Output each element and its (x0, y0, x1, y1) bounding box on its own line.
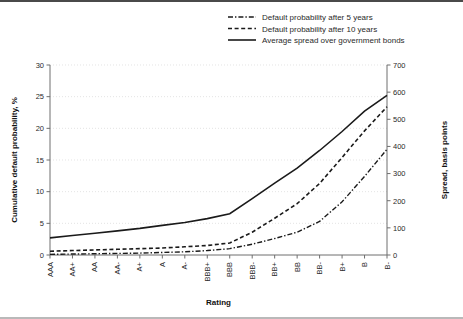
y-ticklabel-right: 600 (393, 88, 406, 97)
x-ticklabel: AA- (113, 262, 122, 275)
x-ticklabel: B (360, 262, 369, 267)
y-ticklabel-left: 30 (36, 61, 44, 70)
x-ticklabel: AA+ (68, 261, 77, 276)
x-ticklabel: BB (293, 262, 302, 272)
legend-label: Default probability after 5 years (262, 13, 373, 22)
legend-label: Average spread over government bonds (262, 36, 405, 45)
y-ticklabel-right: 500 (393, 115, 406, 124)
x-ticklabel: BBB+ (203, 261, 212, 281)
y-ticklabel-right: 300 (393, 169, 406, 178)
y-ticklabel-left: 25 (36, 92, 44, 101)
chart-figure: 0510152025300100200300400500600700AAAAA+… (0, 0, 463, 319)
legend-label: Default probability after 10 years (262, 25, 377, 34)
series-line-solid (50, 95, 387, 238)
x-ticklabel: BB- (315, 262, 324, 275)
y-ticklabel-left: 0 (40, 251, 44, 260)
x-ticklabel: A (158, 262, 167, 267)
y-ticklabel-left: 10 (36, 187, 44, 196)
x-ticklabel: BBB- (248, 262, 257, 280)
x-ticklabel: BB+ (270, 261, 279, 276)
y-ticklabel-left: 5 (40, 219, 44, 228)
y-axis-title-left: Cumulative default probability, % (10, 97, 19, 223)
x-ticklabel: B- (383, 261, 392, 269)
x-ticklabel: B+ (338, 261, 347, 271)
y-axis-title-right: Spread, basis points (440, 120, 449, 199)
y-ticklabel-left: 15 (36, 156, 44, 165)
y-ticklabel-right: 200 (393, 197, 406, 206)
y-ticklabel-left: 20 (36, 124, 44, 133)
chart-canvas: 0510152025300100200300400500600700AAAAA+… (0, 2, 463, 319)
y-ticklabel-right: 700 (393, 61, 406, 70)
y-ticklabel-right: 400 (393, 142, 406, 151)
y-ticklabel-right: 0 (393, 251, 397, 260)
y-ticklabel-right: 100 (393, 224, 406, 233)
x-ticklabel: BBB (225, 262, 234, 277)
x-ticklabel: A+ (135, 261, 144, 271)
x-ticklabel: A- (180, 261, 189, 269)
x-ticklabel: AA (90, 262, 99, 272)
x-axis-title: Rating (206, 298, 231, 307)
x-ticklabel: AAA (46, 262, 55, 277)
